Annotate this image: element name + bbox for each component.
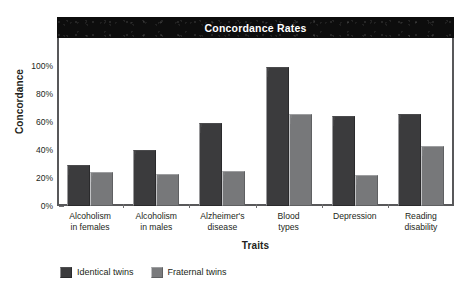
bars-layer	[57, 38, 454, 206]
legend-item-fraternal[interactable]: Fraternal twins	[151, 267, 227, 278]
y-axis-tick-label: 0%	[19, 201, 53, 211]
chart-title: Concordance Rates	[204, 22, 306, 34]
x-axis-category-label: Alcoholismin males	[123, 211, 189, 232]
bar-fraternal-3	[289, 114, 312, 206]
x-axis-category-label: Alzheimer'sdisease	[189, 211, 255, 232]
bar-fraternal-1	[156, 174, 179, 206]
chart-title-band: Concordance Rates	[57, 17, 454, 38]
x-axis-category-label: Readingdisability	[388, 211, 454, 232]
y-axis-tick-label: 60%	[19, 117, 53, 127]
x-axis-tick	[123, 204, 124, 208]
x-axis-tick	[189, 204, 190, 208]
x-axis-tick-labels: Alcoholismin femalesAlcoholismin malesAl…	[57, 208, 454, 238]
x-axis-tick	[256, 204, 257, 208]
x-axis-category-line: types	[256, 222, 322, 233]
chart-figure: Concordance Rates Concordance 0%20%40%60…	[0, 0, 463, 286]
y-axis-tick-label: 100%	[19, 61, 53, 71]
x-axis-title: Traits	[57, 240, 454, 251]
x-axis-category-label: Bloodtypes	[256, 211, 322, 232]
x-axis-category-line: disability	[388, 222, 454, 233]
bar-fraternal-2	[222, 171, 245, 206]
x-axis-category-line: disease	[189, 222, 255, 233]
bar-identical-0	[67, 165, 90, 206]
bar-fraternal-0	[90, 172, 113, 206]
bar-identical-1	[133, 150, 156, 206]
x-axis-category-line: Blood	[256, 211, 322, 222]
x-axis-category-line: Alcoholism	[57, 211, 123, 222]
bar-fraternal-5	[421, 146, 444, 206]
bar-identical-5	[398, 114, 421, 206]
x-axis-category-line: Depression	[322, 211, 388, 222]
legend-item-identical[interactable]: Identical twins	[60, 267, 134, 278]
y-axis-tick	[59, 206, 64, 207]
x-axis-category-line: in females	[57, 222, 123, 233]
x-axis-category-line: Alcoholism	[123, 211, 189, 222]
chart-legend: Identical twinsFraternal twins	[57, 264, 454, 280]
y-axis-tick-label: 40%	[19, 145, 53, 155]
bar-fraternal-4	[355, 175, 378, 206]
bar-identical-4	[332, 116, 355, 206]
x-axis-category-line: Reading	[388, 211, 454, 222]
legend-label: Identical twins	[77, 267, 134, 277]
bar-identical-2	[199, 123, 222, 206]
x-axis-category-line: in males	[123, 222, 189, 233]
y-axis-tick-label: 20%	[19, 173, 53, 183]
bar-identical-3	[266, 67, 289, 206]
legend-label: Fraternal twins	[168, 267, 227, 277]
x-axis-category-label: Depression	[322, 211, 388, 222]
x-axis-tick	[322, 204, 323, 208]
x-axis-tick	[388, 204, 389, 208]
y-axis-tick-label: 80%	[19, 89, 53, 99]
legend-swatch-identical	[60, 267, 72, 278]
x-axis-category-label: Alcoholismin females	[57, 211, 123, 232]
legend-swatch-fraternal	[151, 267, 163, 278]
x-axis-category-line: Alzheimer's	[189, 211, 255, 222]
